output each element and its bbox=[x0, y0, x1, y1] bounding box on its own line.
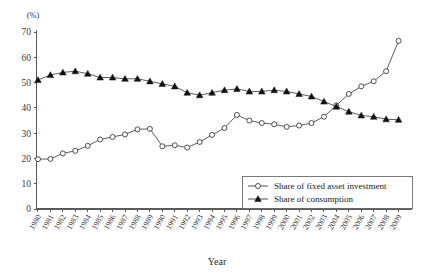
x-tick-label: 1998 bbox=[251, 213, 267, 231]
data-point-marker bbox=[98, 137, 103, 142]
legend-label: Share of fixed asset investment bbox=[274, 181, 387, 191]
data-point-marker bbox=[284, 124, 289, 129]
data-point-marker bbox=[234, 112, 239, 117]
x-tick-label: 2004 bbox=[326, 213, 342, 231]
data-point-marker bbox=[271, 87, 278, 93]
x-tick-label: 1991 bbox=[164, 213, 180, 231]
data-point-marker bbox=[346, 108, 353, 114]
x-tick-label: 2007 bbox=[363, 213, 379, 231]
data-point-marker bbox=[110, 134, 115, 139]
data-point-marker bbox=[135, 127, 140, 132]
legend-label: Share of consumption bbox=[274, 194, 353, 204]
x-tick-label: 1997 bbox=[239, 213, 255, 231]
y-tick-label: 60 bbox=[22, 53, 32, 63]
data-point-marker bbox=[384, 69, 389, 74]
data-point-marker bbox=[185, 145, 190, 150]
x-tick-label: 1996 bbox=[226, 213, 242, 231]
x-tick-label: 1986 bbox=[102, 213, 118, 231]
data-point-marker bbox=[147, 126, 152, 131]
chart-legend: Share of fixed asset investmentShare of … bbox=[242, 176, 412, 208]
series-open-circle bbox=[35, 38, 401, 161]
x-tick-label: 1990 bbox=[152, 213, 168, 231]
x-tick-label: 1999 bbox=[264, 213, 280, 231]
x-tick-label: 1988 bbox=[127, 213, 143, 231]
x-tick-label: 1983 bbox=[65, 213, 81, 231]
y-axis-ticks: 010203040506070 bbox=[22, 27, 37, 214]
x-tick-label: 2002 bbox=[301, 213, 317, 231]
data-point-marker bbox=[72, 68, 79, 74]
data-point-marker bbox=[160, 144, 165, 149]
x-tick-label: 2009 bbox=[388, 213, 404, 231]
data-point-marker bbox=[60, 151, 65, 156]
data-point-marker bbox=[73, 148, 78, 153]
y-tick-label: 10 bbox=[22, 179, 32, 189]
chart-series bbox=[35, 38, 402, 161]
x-tick-label: 1981 bbox=[40, 213, 56, 231]
data-point-marker bbox=[35, 157, 40, 162]
y-tick-label: 20 bbox=[22, 154, 32, 164]
x-tick-label: 1994 bbox=[202, 213, 218, 231]
data-point-marker bbox=[359, 84, 364, 89]
data-point-marker bbox=[309, 121, 314, 126]
x-tick-label: 2008 bbox=[376, 213, 392, 231]
x-axis-title: Year bbox=[208, 256, 227, 267]
data-point-marker bbox=[197, 139, 202, 144]
x-tick-label: 1985 bbox=[90, 213, 106, 231]
data-point-marker bbox=[222, 126, 227, 131]
data-point-marker bbox=[234, 86, 241, 92]
data-point-marker bbox=[123, 132, 128, 137]
data-point-marker bbox=[297, 123, 302, 128]
line-chart: 010203040506070 198019811982198319841985… bbox=[0, 0, 424, 274]
y-tick-label: 40 bbox=[22, 103, 32, 113]
x-tick-label: 1980 bbox=[27, 213, 43, 231]
x-tick-label: 1987 bbox=[114, 213, 130, 231]
data-point-marker bbox=[184, 89, 191, 95]
x-tick-label: 2000 bbox=[276, 213, 292, 231]
data-point-marker bbox=[247, 118, 252, 123]
data-point-marker bbox=[396, 38, 401, 43]
x-tick-label: 1993 bbox=[189, 213, 205, 231]
y-axis-unit-label: (%) bbox=[27, 10, 40, 20]
x-tick-label: 2003 bbox=[313, 213, 329, 231]
x-tick-label: 2006 bbox=[351, 213, 367, 231]
data-point-marker bbox=[172, 143, 177, 148]
data-point-marker bbox=[85, 143, 90, 148]
x-tick-label: 2001 bbox=[289, 213, 305, 231]
data-point-marker bbox=[371, 79, 376, 84]
data-point-marker bbox=[259, 121, 264, 126]
y-tick-label: 70 bbox=[22, 27, 32, 37]
x-tick-label: 1995 bbox=[214, 213, 230, 231]
chart-container: 010203040506070 198019811982198319841985… bbox=[0, 0, 424, 274]
data-point-marker bbox=[321, 98, 328, 104]
data-point-marker bbox=[210, 132, 215, 137]
x-tick-label: 1984 bbox=[77, 213, 93, 231]
y-tick-label: 30 bbox=[22, 129, 32, 139]
data-point-marker bbox=[346, 91, 351, 96]
x-tick-label: 1992 bbox=[177, 213, 193, 231]
x-axis-ticks: 1980198119821983198419851986198719881989… bbox=[27, 209, 403, 231]
data-point-marker bbox=[48, 156, 53, 161]
data-point-marker bbox=[35, 77, 42, 83]
data-point-marker bbox=[321, 114, 326, 119]
y-tick-label: 0 bbox=[26, 204, 31, 214]
y-tick-label: 50 bbox=[22, 78, 32, 88]
x-tick-label: 1982 bbox=[52, 213, 68, 231]
x-tick-label: 1989 bbox=[139, 213, 155, 231]
data-point-marker bbox=[272, 122, 277, 127]
x-tick-label: 2005 bbox=[338, 213, 354, 231]
